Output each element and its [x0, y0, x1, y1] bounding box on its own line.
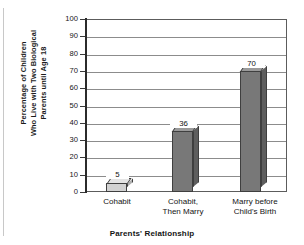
x-category-label-cohabit-then-marry: Cohabit, Then Marry	[150, 197, 216, 216]
x-category-label-cohabit-then-marry-line-1: Cohabit,	[150, 197, 216, 207]
bar-marry-before-birth-value: 70	[238, 59, 265, 68]
bar-cohabit-then-marry-side	[193, 126, 199, 187]
bar-marry-before-birth-side	[261, 66, 267, 187]
y-tick-label-20: 20	[58, 153, 78, 161]
y-tick-label-30: 30	[58, 136, 78, 144]
bar-marry-before-birth-face	[240, 71, 261, 192]
x-category-label-marry-before-birth-line-2: Child's Birth	[219, 207, 291, 217]
y-axis-title-text: Percentage of Children Who Live with Two…	[19, 30, 50, 136]
y-tick-label-50: 50	[58, 102, 78, 110]
x-category-label-cohabit: Cohabit	[86, 197, 148, 207]
y-axis-tick-labels: 100 90 80 70 60 50 40 30 20 10 0	[56, 0, 78, 200]
bar-cohabit-then-marry-value: 36	[170, 119, 197, 128]
y-axis-title: Percentage of Children Who Live with Two…	[11, 3, 57, 163]
bar-cohabit-then-marry[interactable]	[172, 131, 193, 192]
chart-page: Percentage of Children Who Live with Two…	[0, 0, 304, 245]
x-axis-title: Parents' Relationship	[0, 229, 304, 238]
gridline-80	[87, 55, 286, 56]
y-tick-label-0: 0	[58, 188, 78, 196]
y-tick-label-80: 80	[58, 50, 78, 58]
x-category-label-marry-before-birth: Marry before Child's Birth	[219, 197, 291, 216]
y-tick-label-70: 70	[58, 67, 78, 75]
gridline-90	[87, 37, 286, 38]
bar-marry-before-birth[interactable]	[240, 71, 261, 192]
y-tick-label-100: 100	[58, 15, 78, 23]
bar-cohabit-then-marry-face	[172, 131, 193, 192]
y-axis-title-line-2: Who Live with Two Biological	[29, 30, 39, 136]
page-edge-rule	[3, 8, 4, 236]
y-tick-label-10: 10	[58, 171, 78, 179]
x-category-label-marry-before-birth-line-1: Marry before	[219, 197, 291, 207]
bar-cohabit[interactable]	[106, 183, 127, 192]
x-category-label-cohabit-line-1: Cohabit	[86, 197, 148, 207]
y-tick-label-40: 40	[58, 119, 78, 127]
y-axis-title-line-3: Parents until Age 18	[39, 30, 49, 136]
bar-cohabit-face	[106, 183, 127, 192]
y-axis-title-line-1: Percentage of Children	[19, 30, 29, 136]
bar-cohabit-value: 5	[106, 170, 129, 179]
y-axis-line	[85, 18, 87, 193]
y-tick-label-60: 60	[58, 84, 78, 92]
x-category-label-cohabit-then-marry-line-2: Then Marry	[150, 207, 216, 217]
y-tick-label-90: 90	[58, 32, 78, 40]
